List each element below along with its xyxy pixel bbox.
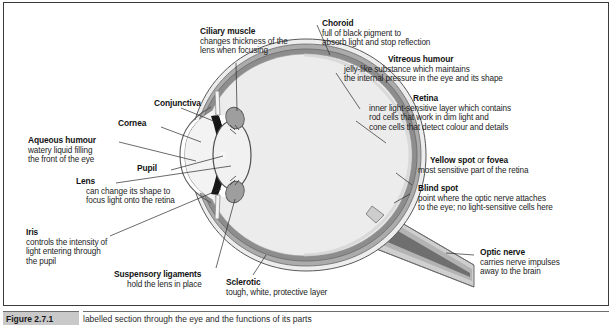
conjunctiva-tab-upper [215, 91, 220, 115]
label-conjunctiva: Conjunctiva [154, 99, 201, 109]
label-term: Ciliary muscle [200, 27, 288, 37]
label-lens: Lens can change its shape to focus light… [76, 177, 175, 206]
label-vitreous-humour: Vitreous humour jelly-like substance whi… [388, 55, 503, 84]
figure-number: Figure 2.7.1 [3, 311, 79, 325]
label-term: Pupil [137, 164, 157, 174]
label-desc-line: point where the optic nerve attaches [418, 194, 553, 204]
label-blind-spot: Blind spot point where the optic nerve a… [418, 184, 553, 213]
label-desc-line: rod cells that work in dim light and [369, 113, 511, 123]
label-desc-line: lens when focusing [200, 46, 288, 56]
label-sclerotic: Sclerotic tough, white, protective layer [226, 278, 327, 297]
label-choroid: Choroid full of black pigment to absorb … [322, 19, 430, 48]
lens-shape [213, 121, 251, 189]
label-term: Aqueous humour [28, 136, 96, 146]
label-iris: Iris controls the intensity of light ent… [26, 228, 107, 267]
label-term-secondary: fovea [487, 155, 508, 165]
label-desc-line: full of black pigment to [322, 29, 430, 39]
label-desc-line: the front of the eye [28, 155, 96, 165]
label-desc-line: hold the lens in place [127, 280, 202, 290]
label-term-primary: Yellow spot [430, 155, 475, 165]
label-desc-line: inner light-sensitive layer which contai… [369, 104, 511, 114]
label-ciliary-muscle: Ciliary muscle changes thickness of the … [200, 27, 288, 56]
label-desc-line: the pupil [26, 257, 107, 267]
label-term: Suspensory ligaments [114, 270, 202, 280]
label-desc-line: cone cells that detect colour and detail… [369, 123, 511, 133]
label-term: Cornea [118, 119, 146, 129]
label-term: Optic nerve [480, 248, 560, 258]
label-yellow-spot: Yellow spot or fovea most sensitive part… [430, 156, 528, 175]
label-term: Iris [26, 228, 107, 238]
label-retina: Retina inner light-sensitive layer which… [413, 94, 511, 133]
label-term: Blind spot [418, 184, 553, 194]
pupil-opening [220, 152, 226, 159]
label-desc-line: focus light onto the retina [86, 196, 175, 206]
label-desc-line: tough, white, protective layer [226, 288, 327, 298]
figure-caption-text: labelled section through the eye and the… [83, 311, 609, 325]
label-desc-line: controls the intensity of [26, 238, 107, 248]
label-desc-line: away to the brain [480, 267, 560, 277]
label-desc-line: can change its shape to [86, 187, 175, 197]
label-cornea: Cornea [118, 119, 146, 129]
label-term: Choroid [322, 19, 430, 29]
label-term-conjunction: or [475, 155, 487, 165]
label-desc-line: watery liquid filling [28, 146, 96, 156]
label-term: Lens [76, 177, 175, 187]
figure-panel: Ciliary muscle changes thickness of the … [3, 2, 609, 306]
label-optic-nerve: Optic nerve carries nerve impulses away … [480, 248, 560, 277]
label-term: Yellow spot or fovea [430, 156, 528, 166]
label-desc-line: most sensitive part of the retina [418, 166, 528, 176]
label-suspensory-ligaments: Suspensory ligaments hold the lens in pl… [114, 270, 202, 289]
label-desc-line: carries nerve impulses [480, 258, 560, 268]
label-desc-line: light entering through [26, 247, 107, 257]
label-desc-line: the internal pressure in the eye and its… [344, 74, 503, 84]
label-desc-line: absorb light and stop reflection [322, 38, 430, 48]
label-desc-line: jelly-like substance which maintains [344, 65, 503, 75]
label-term: Retina [413, 94, 511, 104]
label-term: Conjunctiva [154, 99, 201, 109]
figure-caption: Figure 2.7.1 labelled section through th… [3, 311, 609, 325]
label-term: Sclerotic [226, 278, 327, 288]
label-desc-line: changes thickness of the [200, 37, 288, 47]
conjunctiva-tab-lower [215, 195, 220, 219]
label-aqueous-humour: Aqueous humour watery liquid filling the… [28, 136, 96, 165]
label-desc-line: to the eye; no light-sensitive cells her… [418, 203, 553, 213]
label-term: Vitreous humour [388, 55, 503, 65]
label-pupil: Pupil [137, 164, 157, 174]
